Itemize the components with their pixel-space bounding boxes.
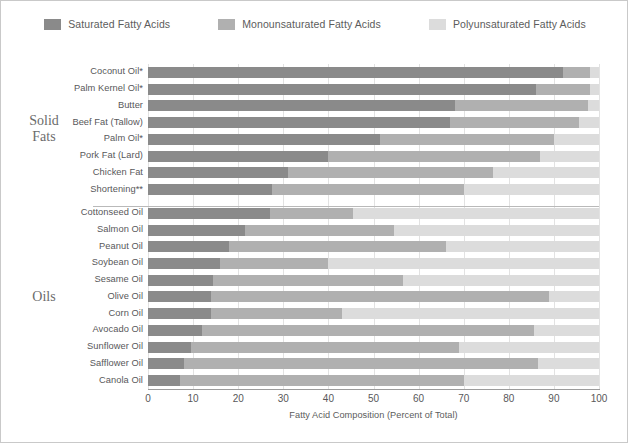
bar-segment[interactable] — [148, 117, 450, 128]
bar-segment[interactable] — [211, 308, 342, 319]
bar-segment[interactable] — [148, 208, 270, 219]
bar-row[interactable] — [148, 167, 599, 178]
category-label: Sunflower Oil — [33, 341, 143, 351]
bar-row[interactable] — [148, 84, 599, 95]
x-axis-line — [148, 389, 600, 390]
bar-row[interactable] — [148, 275, 599, 286]
bar-segment[interactable] — [148, 134, 380, 145]
bar-row[interactable] — [148, 134, 599, 145]
bar-row[interactable] — [148, 100, 599, 111]
group-separator-line — [93, 206, 599, 207]
bar-segment[interactable] — [148, 84, 536, 95]
category-label: Corn Oil — [33, 308, 143, 318]
bar-segment[interactable] — [148, 325, 202, 336]
bar-segment[interactable] — [554, 134, 599, 145]
bar-segment[interactable] — [464, 375, 599, 386]
bar-segment[interactable] — [148, 291, 211, 302]
bar-segment[interactable] — [538, 358, 599, 369]
bar-segment[interactable] — [394, 225, 599, 236]
bar-segment[interactable] — [549, 291, 599, 302]
bar-segment[interactable] — [148, 342, 191, 353]
bar-row[interactable] — [148, 342, 599, 353]
bar-segment[interactable] — [148, 184, 272, 195]
chart-legend: Saturated Fatty Acids Monounsaturated Fa… — [1, 13, 628, 35]
bar-segment[interactable] — [563, 67, 590, 78]
category-axis-labels: Coconut Oil*Palm Kernel Oil*ButterBeef F… — [31, 64, 143, 389]
bar-segment[interactable] — [229, 241, 445, 252]
bar-segment[interactable] — [202, 325, 533, 336]
bar-segment[interactable] — [493, 167, 599, 178]
x-tick-label-10: 10 — [173, 393, 213, 404]
bar-segment[interactable] — [148, 151, 328, 162]
bar-segment[interactable] — [464, 184, 599, 195]
bar-segment[interactable] — [148, 308, 211, 319]
bar-segment[interactable] — [184, 358, 538, 369]
bar-segment[interactable] — [148, 241, 229, 252]
fatty-acid-composition-chart: Saturated Fatty Acids Monounsaturated Fa… — [0, 0, 628, 443]
category-label: Shortening** — [33, 184, 143, 194]
gridline-100 — [599, 64, 600, 389]
bar-segment[interactable] — [270, 208, 353, 219]
bar-segment[interactable] — [245, 225, 394, 236]
bar-segment[interactable] — [148, 67, 563, 78]
x-tick-label-70: 70 — [444, 393, 484, 404]
bar-row[interactable] — [148, 67, 599, 78]
bar-row[interactable] — [148, 358, 599, 369]
x-tick-label-90: 90 — [534, 393, 574, 404]
category-label: Cottonseed Oil — [33, 207, 143, 217]
bar-segment[interactable] — [328, 258, 599, 269]
legend-swatch-saturated — [44, 19, 61, 30]
bar-segment[interactable] — [272, 184, 464, 195]
legend-swatch-polyunsaturated — [429, 19, 446, 30]
bar-segment[interactable] — [148, 258, 220, 269]
bar-segment[interactable] — [148, 225, 245, 236]
bar-segment[interactable] — [536, 84, 590, 95]
bar-segment[interactable] — [213, 275, 402, 286]
bar-segment[interactable] — [534, 325, 599, 336]
category-label: Beef Fat (Tallow) — [33, 117, 143, 127]
bar-row[interactable] — [148, 291, 599, 302]
bar-row[interactable] — [148, 375, 599, 386]
bar-segment[interactable] — [540, 151, 599, 162]
x-tick-label-80: 80 — [489, 393, 529, 404]
bar-segment[interactable] — [588, 100, 599, 111]
bar-segment[interactable] — [590, 67, 599, 78]
bar-row[interactable] — [148, 151, 599, 162]
x-tick-label-50: 50 — [354, 393, 394, 404]
category-label: Olive Oil — [33, 291, 143, 301]
bar-segment[interactable] — [180, 375, 464, 386]
bar-row[interactable] — [148, 117, 599, 128]
bar-segment[interactable] — [455, 100, 588, 111]
bar-segment[interactable] — [148, 358, 184, 369]
bar-row[interactable] — [148, 325, 599, 336]
bar-segment[interactable] — [342, 308, 599, 319]
bar-segment[interactable] — [380, 134, 554, 145]
bar-segment[interactable] — [353, 208, 599, 219]
bar-segment[interactable] — [459, 342, 599, 353]
bar-segment[interactable] — [403, 275, 599, 286]
bar-segment[interactable] — [211, 291, 549, 302]
bar-segment[interactable] — [148, 375, 180, 386]
bar-row[interactable] — [148, 225, 599, 236]
bar-row[interactable] — [148, 208, 599, 219]
category-label: Canola Oil — [33, 375, 143, 385]
bar-segment[interactable] — [446, 241, 599, 252]
bar-row[interactable] — [148, 241, 599, 252]
category-label: Peanut Oil — [33, 241, 143, 251]
category-label: Soybean Oil — [33, 257, 143, 267]
category-label: Palm Kernel Oil* — [33, 83, 143, 93]
bar-row[interactable] — [148, 184, 599, 195]
bar-segment[interactable] — [148, 167, 288, 178]
bar-segment[interactable] — [148, 100, 455, 111]
bar-segment[interactable] — [220, 258, 328, 269]
bar-segment[interactable] — [191, 342, 459, 353]
bar-segment[interactable] — [590, 84, 599, 95]
bar-segment[interactable] — [328, 151, 540, 162]
bar-segment[interactable] — [148, 275, 213, 286]
bar-row[interactable] — [148, 308, 599, 319]
bar-segment[interactable] — [579, 117, 599, 128]
bar-segment[interactable] — [450, 117, 579, 128]
category-label: Avocado Oil — [33, 324, 143, 334]
bar-row[interactable] — [148, 258, 599, 269]
bar-segment[interactable] — [288, 167, 493, 178]
